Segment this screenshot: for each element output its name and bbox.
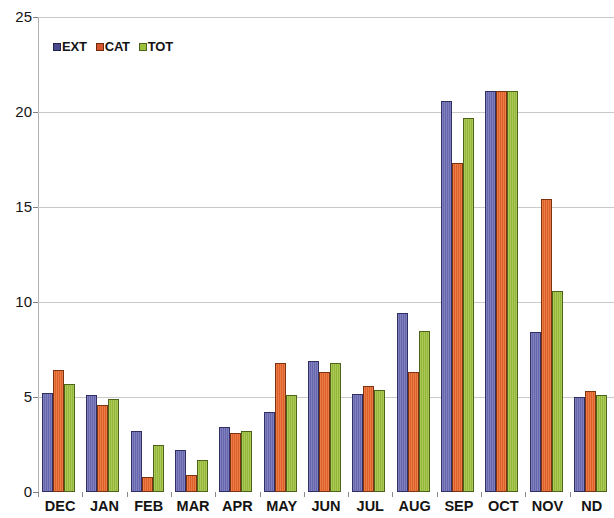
bar-cat-oct (496, 91, 507, 492)
bar-group (525, 17, 569, 492)
bar-ext-may (264, 412, 275, 492)
bar-tot-aug (419, 331, 430, 493)
legend-label-cat: CAT (105, 39, 130, 54)
bar-ext-jan (86, 395, 97, 492)
bar-group (171, 17, 215, 492)
bar-ext-feb (131, 431, 142, 492)
y-axis-tick-labels: 0510152025 (0, 0, 32, 518)
legend-label-tot: TOT (148, 39, 173, 54)
bar-tot-jun (330, 363, 341, 492)
bar-group (38, 17, 82, 492)
bar-tot-sep (463, 118, 474, 492)
x-tick-mark (437, 492, 438, 497)
x-tick-mark (127, 492, 128, 497)
x-axis-label-jan: JAN (82, 498, 126, 514)
x-axis-label-sep: SEP (437, 498, 481, 514)
x-axis-label-feb: FEB (127, 498, 171, 514)
bar-tot-oct (507, 91, 518, 492)
bar-group (348, 17, 392, 492)
x-axis-tick-labels: DECJANFEBMARAPRMAYJUNJULAUGSEPOCTNOVND (0, 498, 614, 518)
bar-cat-nd (585, 391, 596, 492)
x-axis-label-jul: JUL (348, 498, 392, 514)
bar-tot-jan (108, 399, 119, 492)
bar-cat-jan (97, 405, 108, 492)
x-tick-mark (82, 492, 83, 497)
bar-ext-dec (42, 393, 53, 492)
legend-entry-ext: EXT (53, 39, 87, 54)
bar-tot-nd (596, 395, 607, 492)
bar-ext-aug (397, 313, 408, 492)
bar-ext-jun (308, 361, 319, 492)
bar-chart: 0510152025 DECJANFEBMARAPRMAYJUNJULAUGSE… (0, 0, 614, 518)
bar-group (215, 17, 259, 492)
x-axis-label-oct: OCT (481, 498, 525, 514)
bar-group (82, 17, 126, 492)
x-axis-label-may: MAY (260, 498, 304, 514)
bar-group (260, 17, 304, 492)
plot-area (38, 17, 614, 492)
bar-cat-mar (186, 475, 197, 492)
x-tick-mark (38, 492, 39, 497)
bar-cat-sep (452, 163, 463, 492)
bar-ext-mar (175, 450, 186, 492)
bar-tot-mar (197, 460, 208, 492)
bar-cat-dec (53, 370, 64, 492)
bar-ext-sep (441, 101, 452, 492)
bar-group (304, 17, 348, 492)
bar-cat-aug (408, 372, 419, 492)
legend-entry-cat: CAT (96, 39, 130, 54)
bar-tot-jul (374, 390, 385, 492)
x-axis-label-nd: ND (570, 498, 614, 514)
x-axis-label-jun: JUN (304, 498, 348, 514)
bar-ext-nov (530, 332, 541, 492)
bar-group (127, 17, 171, 492)
x-tick-mark (348, 492, 349, 497)
x-axis-label-apr: APR (215, 498, 259, 514)
bar-cat-jun (319, 372, 330, 492)
bar-tot-apr (241, 431, 252, 492)
legend-label-ext: EXT (62, 39, 87, 54)
bar-cat-feb (142, 477, 153, 492)
x-tick-mark (215, 492, 216, 497)
x-tick-mark (171, 492, 172, 497)
x-tick-mark (260, 492, 261, 497)
bar-group (481, 17, 525, 492)
x-axis-label-dec: DEC (38, 498, 82, 514)
bar-cat-nov (541, 199, 552, 492)
bar-cat-may (275, 363, 286, 492)
legend-swatch-cat-icon (96, 43, 104, 51)
bar-ext-oct (485, 91, 496, 492)
bar-tot-may (286, 395, 297, 492)
x-tick-mark (570, 492, 571, 497)
bar-ext-apr (219, 427, 230, 492)
bar-group (392, 17, 436, 492)
legend: EXTCATTOT (53, 39, 173, 54)
bar-group (437, 17, 481, 492)
x-axis-label-mar: MAR (171, 498, 215, 514)
legend-swatch-tot-icon (139, 43, 147, 51)
legend-entry-tot: TOT (139, 39, 173, 54)
x-tick-mark (525, 492, 526, 497)
bar-tot-dec (64, 384, 75, 492)
bar-tot-feb (153, 445, 164, 493)
bar-ext-nd (574, 397, 585, 492)
x-axis-label-aug: AUG (392, 498, 436, 514)
bar-group (570, 17, 614, 492)
x-axis-label-nov: NOV (525, 498, 569, 514)
x-tick-mark (481, 492, 482, 497)
bar-tot-nov (552, 291, 563, 492)
bar-ext-jul (352, 394, 363, 492)
x-tick-mark (392, 492, 393, 497)
legend-swatch-ext-icon (53, 43, 61, 51)
bar-cat-apr (230, 433, 241, 492)
bar-cat-jul (363, 386, 374, 492)
x-tick-mark (304, 492, 305, 497)
